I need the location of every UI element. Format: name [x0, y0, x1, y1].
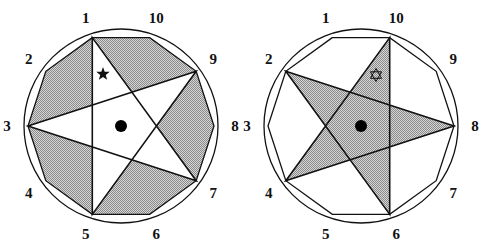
vertex-label-5: 5: [82, 226, 90, 242]
vertex-label-3: 3: [243, 118, 251, 134]
vertex-label-4: 4: [265, 185, 273, 201]
vertex-label-9: 9: [449, 51, 457, 67]
vertex-label-6: 6: [392, 226, 400, 242]
right-figure: 12345678910: [243, 10, 479, 243]
vertex-label-1: 1: [82, 10, 90, 26]
decagon-pentagram-diagram: 12345678910 12345678910: [0, 0, 484, 248]
vertex-label-6: 6: [152, 226, 160, 242]
vertex-label-8: 8: [471, 118, 479, 134]
center-dot-icon: [355, 120, 367, 132]
vertex-label-10: 10: [149, 10, 164, 26]
vertex-label-2: 2: [265, 51, 273, 67]
vertex-label-1: 1: [322, 10, 330, 26]
vertex-label-2: 2: [25, 51, 33, 67]
vertex-label-10: 10: [389, 10, 404, 26]
vertex-label-7: 7: [449, 185, 457, 201]
left-figure: 12345678910: [3, 10, 239, 243]
vertex-label-8: 8: [231, 118, 239, 134]
vertex-label-9: 9: [209, 51, 217, 67]
vertex-label-3: 3: [3, 118, 11, 134]
vertex-label-5: 5: [322, 226, 330, 242]
center-dot-icon: [115, 120, 127, 132]
vertex-label-7: 7: [209, 185, 217, 201]
vertex-label-4: 4: [25, 185, 33, 201]
